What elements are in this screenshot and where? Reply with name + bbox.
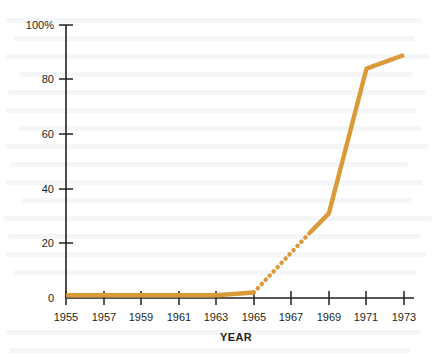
chart-plot-area: 100% 80 60 40 20 0 1955 1957 1959 1961 1… bbox=[0, 0, 438, 357]
y-tick-label-60: 60 bbox=[42, 128, 54, 140]
y-tick-label-100: 100% bbox=[26, 19, 54, 31]
series-line-dotted-estimated bbox=[254, 232, 310, 292]
chart-figure: 100% 80 60 40 20 0 1955 1957 1959 1961 1… bbox=[0, 0, 438, 357]
y-tick-label-0: 0 bbox=[48, 292, 54, 304]
series-line-solid-early bbox=[66, 293, 254, 296]
data-series-group bbox=[66, 55, 404, 295]
x-tick-label-1973: 1973 bbox=[392, 311, 416, 323]
y-tick-label-20: 20 bbox=[42, 237, 54, 249]
y-axis-tick-labels: 100% 80 60 40 20 0 bbox=[26, 19, 54, 304]
y-axis bbox=[59, 25, 73, 298]
x-tick-label-1955: 1955 bbox=[54, 311, 78, 323]
x-tick-label-1967: 1967 bbox=[279, 311, 303, 323]
x-tick-label-1959: 1959 bbox=[129, 311, 153, 323]
x-tick-label-1971: 1971 bbox=[354, 311, 378, 323]
y-tick-label-80: 80 bbox=[42, 73, 54, 85]
series-line-solid-late bbox=[310, 55, 404, 232]
x-tick-label-1969: 1969 bbox=[317, 311, 341, 323]
x-tick-label-1965: 1965 bbox=[242, 311, 266, 323]
x-axis-tick-labels: 1955 1957 1959 1961 1963 1965 1967 1969 … bbox=[54, 311, 416, 323]
x-tick-label-1961: 1961 bbox=[167, 311, 191, 323]
x-tick-label-1963: 1963 bbox=[204, 311, 228, 323]
x-tick-label-1957: 1957 bbox=[92, 311, 116, 323]
x-axis-title: YEAR bbox=[220, 331, 252, 343]
y-tick-label-40: 40 bbox=[42, 183, 54, 195]
